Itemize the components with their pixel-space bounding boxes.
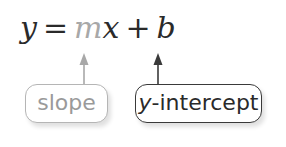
slope-arrow-icon [80, 53, 89, 84]
y-intercept-label: y-intercept [135, 84, 262, 123]
intercept-arrow-icon [154, 53, 163, 84]
arrows [0, 0, 286, 147]
y-intercept-label-var: y [139, 90, 152, 115]
slope-label-text: slope [37, 90, 96, 115]
slope-intercept-diagram: y=mx+b slope y-intercept [0, 0, 286, 147]
slope-label: slope [25, 84, 108, 123]
y-intercept-label-text: -intercept [152, 90, 259, 115]
